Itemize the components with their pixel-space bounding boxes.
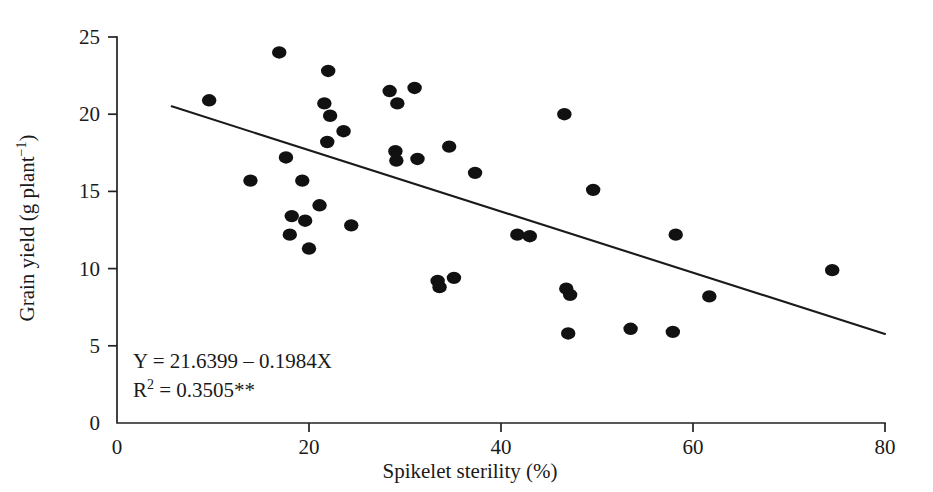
x-axis-ticks <box>309 423 885 432</box>
data-point <box>202 94 216 106</box>
data-point <box>432 281 446 293</box>
y-tick-label: 5 <box>90 334 101 358</box>
data-points <box>202 46 839 339</box>
r-squared-prefix: R <box>133 378 147 402</box>
r-squared-rest: = 0.3505** <box>154 378 255 402</box>
y-axis-ticks <box>108 37 117 346</box>
r-squared-value: R2 = 0.3505** <box>133 377 255 402</box>
y-tick-label: 15 <box>79 179 100 203</box>
data-point <box>243 174 257 186</box>
x-axis-tick-labels: 020406080 <box>112 435 896 459</box>
y-axis-title-group: Grain yield (g plant−1) <box>14 135 39 322</box>
data-point <box>285 210 299 222</box>
regression-annotation: Y = 21.6399 – 0.1984X R2 = 0.3505** <box>133 349 332 402</box>
data-point <box>825 264 839 276</box>
y-axis-tick-labels: 0510152025 <box>79 25 100 435</box>
data-point <box>407 82 421 94</box>
x-tick-label: 20 <box>299 435 320 459</box>
data-point <box>382 85 396 97</box>
data-point <box>279 151 293 163</box>
y-axis-title-close: ) <box>15 135 39 142</box>
x-tick-label: 80 <box>875 435 896 459</box>
regression-equation: Y = 21.6399 – 0.1984X <box>133 349 332 373</box>
y-axis-title: Grain yield (g plant−1) <box>14 135 39 322</box>
y-tick-label: 10 <box>79 257 100 281</box>
data-point <box>563 289 577 301</box>
data-point <box>344 219 358 231</box>
data-point <box>702 290 716 302</box>
data-point <box>321 65 335 77</box>
x-tick-label: 0 <box>112 435 123 459</box>
regression-line <box>172 106 885 334</box>
data-point <box>561 327 575 339</box>
data-point <box>410 153 424 165</box>
data-point <box>468 167 482 179</box>
y-axis-title-main: Grain yield (g plant <box>15 156 39 321</box>
data-point <box>302 242 316 254</box>
x-axis-title: Spikelet sterility (%) <box>383 459 558 483</box>
data-point <box>447 272 461 284</box>
data-point <box>336 125 350 137</box>
data-point <box>623 323 637 335</box>
data-point <box>323 110 337 122</box>
data-point <box>523 230 537 242</box>
y-tick-label: 20 <box>79 102 100 126</box>
data-point <box>389 154 403 166</box>
data-point <box>312 199 326 211</box>
r-squared-superscript: 2 <box>147 377 154 392</box>
x-tick-label: 60 <box>683 435 704 459</box>
y-tick-label: 0 <box>90 411 101 435</box>
x-tick-label: 40 <box>491 435 512 459</box>
data-point <box>557 108 571 120</box>
data-point <box>272 46 286 58</box>
chart-canvas: 0510152025 020406080 Spikelet sterility … <box>0 0 933 492</box>
data-point <box>295 174 309 186</box>
data-point <box>666 326 680 338</box>
data-point <box>669 228 683 240</box>
data-point <box>283 228 297 240</box>
y-tick-label: 25 <box>79 25 100 49</box>
data-point <box>442 140 456 152</box>
y-axis-title-superscript: −1 <box>14 142 29 157</box>
data-point <box>320 136 334 148</box>
data-point <box>298 215 312 227</box>
data-point <box>390 97 404 109</box>
data-point <box>317 97 331 109</box>
scatter-plot-figure: 0510152025 020406080 Spikelet sterility … <box>0 0 933 492</box>
data-point <box>510 228 524 240</box>
data-point <box>586 184 600 196</box>
